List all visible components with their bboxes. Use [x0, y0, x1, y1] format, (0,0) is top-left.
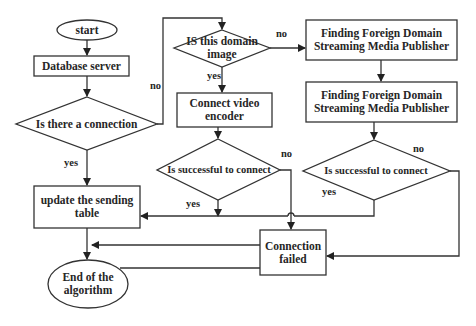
- edge-label-success1-no: no: [281, 148, 292, 159]
- connect-encoder-label: Connect video encoder: [177, 93, 272, 127]
- connection-decision-label: Is there a connection: [16, 114, 157, 134]
- update-table-label: update the sending table: [34, 186, 140, 228]
- edge-label-domain-yes: yes: [207, 70, 221, 81]
- success-decision-label-1: Is successful to connect: [160, 162, 278, 178]
- edge-label-domain-no: no: [276, 28, 287, 39]
- edge-label-success2-no: no: [413, 143, 424, 154]
- finding-publisher-label-2: Finding Foreign Domain Streaming Media P…: [306, 82, 457, 122]
- success-decision-label-2: Is successful to connect: [306, 163, 446, 179]
- database-server-label: Database server: [34, 56, 129, 76]
- end-label: End of the algorithm: [54, 266, 122, 302]
- connection-failed-label: Connection failed: [260, 230, 326, 275]
- edge-success2-yes: [294, 200, 374, 216]
- edge-label-connection-yes: yes: [64, 157, 78, 168]
- edge-label-success1-yes: yes: [186, 198, 200, 209]
- domain-image-label: IS this domain image: [186, 33, 258, 63]
- edge-label-success2-yes: yes: [322, 186, 336, 197]
- edge-label-connection-no: no: [150, 80, 161, 91]
- finding-publisher-label-1: Finding Foreign Domain Streaming Media P…: [306, 20, 457, 60]
- edge-success1-no: [280, 170, 291, 229]
- start-label: start: [57, 20, 117, 40]
